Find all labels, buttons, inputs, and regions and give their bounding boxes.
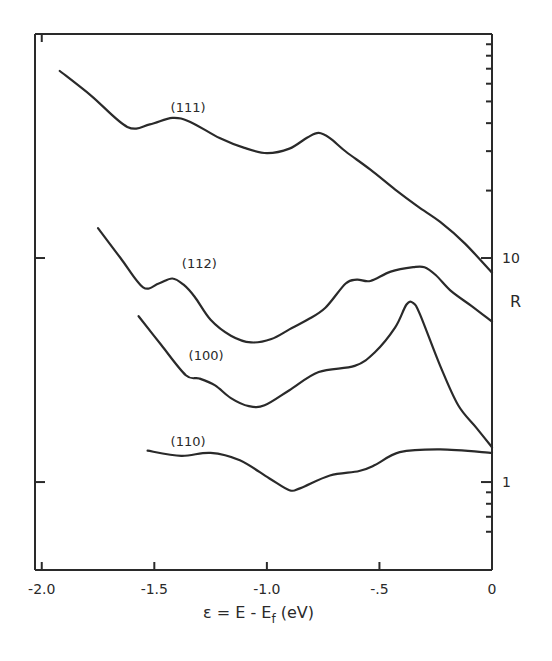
x-axis-title-unit: (eV)	[276, 603, 314, 622]
x-axis-title-main: ε = E - E	[203, 603, 271, 622]
series-line-100	[139, 302, 492, 448]
series-label-112: (112)	[182, 256, 217, 271]
series-labels: (111)(112)(100)(110)	[171, 100, 224, 449]
x-tick-label: -1.5	[141, 581, 168, 597]
x-tick-label: -2.0	[28, 581, 55, 597]
series-line-110	[148, 449, 492, 491]
x-tick-label: -1.0	[253, 581, 280, 597]
x-ticks: -2.0-1.5-1.0-.50	[28, 34, 496, 597]
x-axis-title: ε = E - Ef (eV)	[203, 603, 314, 626]
x-tick-label: -.5	[370, 581, 388, 597]
series-label-100: (100)	[189, 348, 224, 363]
plot-frame	[35, 34, 492, 570]
y-axis-title: R	[510, 292, 521, 311]
series-label-110: (110)	[171, 434, 206, 449]
series-line-112	[98, 228, 492, 342]
series-line-111	[60, 71, 492, 273]
x-tick-label: 0	[488, 581, 497, 597]
series-label-111: (111)	[171, 100, 206, 115]
y-tick-label: 10	[502, 250, 520, 266]
reflectance-chart: -2.0-1.5-1.0-.50 110 (111)(112)(100)(110…	[0, 0, 552, 661]
y-tick-label: 1	[502, 474, 511, 490]
curves	[60, 71, 492, 491]
